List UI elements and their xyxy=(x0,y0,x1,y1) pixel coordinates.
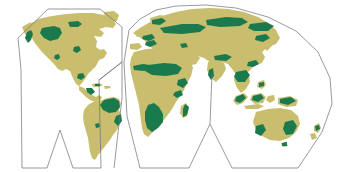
world-map-svg xyxy=(0,0,341,172)
forest-congo-basin xyxy=(145,63,182,76)
world-forest-map-figure xyxy=(0,0,341,172)
